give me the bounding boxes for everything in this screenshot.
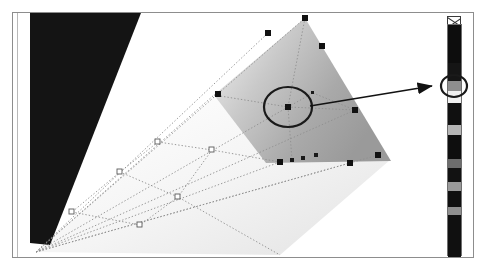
mesh-point-top-left — [265, 30, 271, 36]
swatch-black-4[interactable] — [448, 135, 461, 159]
mesh-point-top-right — [319, 43, 325, 49]
mesh-point-outer-bot — [137, 222, 142, 227]
page-title: Gradient Mesh Editing — [0, 0, 1, 1]
mesh-point-bottom-c — [301, 156, 305, 160]
swatch-gray-mid[interactable] — [448, 81, 461, 91]
swatch-gray-lt2[interactable] — [448, 207, 461, 215]
swatch-gray-lt[interactable] — [448, 125, 461, 135]
mesh-point-left-upper — [215, 91, 221, 97]
color-palette-strip[interactable] — [447, 24, 462, 256]
mesh-point-outer-lower — [117, 169, 122, 174]
swatch-black-5[interactable] — [448, 168, 461, 182]
swatch-black-7[interactable] — [448, 215, 461, 257]
mesh-point-center — [285, 104, 291, 110]
mesh-point-bottom-b — [290, 158, 294, 162]
mesh-point-outer-left — [155, 139, 160, 144]
mesh-point-bottom-a — [277, 159, 283, 165]
mesh-point-bottom-e — [347, 160, 353, 166]
mesh-point-outer-mid — [175, 194, 180, 199]
mesh-point-outer-far — [69, 209, 74, 214]
swatch-black-2[interactable] — [448, 63, 461, 81]
swatch-gray-md2[interactable] — [448, 182, 461, 191]
artboard-canvas[interactable] — [13, 13, 473, 257]
screenshot-root: Gradient Mesh Editing — [0, 0, 488, 271]
mesh-point-bottom-d — [314, 153, 318, 157]
swatch-black-3[interactable] — [448, 103, 461, 125]
swatch-black-6[interactable] — [448, 191, 461, 207]
mesh-point-outer-up — [209, 147, 214, 152]
mesh-point-bottom-right — [375, 152, 381, 158]
mesh-point-right-mid — [352, 107, 358, 113]
mesh-point-small-upper — [311, 91, 314, 94]
swatch-gray-dk[interactable] — [448, 159, 461, 168]
swatch-white-1[interactable] — [448, 91, 461, 103]
swatch-black-1[interactable] — [448, 25, 461, 63]
mesh-point-apex — [302, 15, 308, 21]
